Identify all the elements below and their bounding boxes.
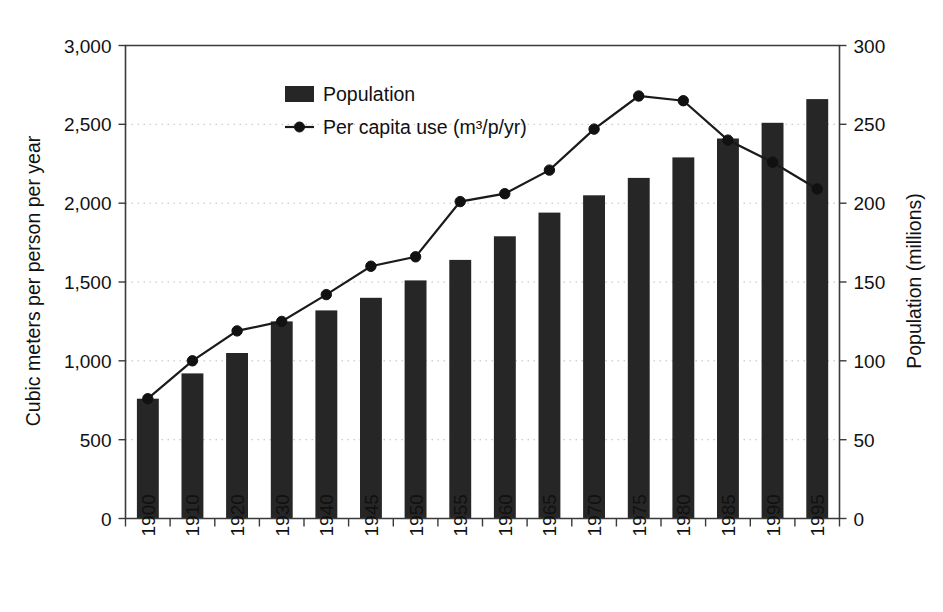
x-tick-label-1990: 1990 bbox=[763, 494, 784, 536]
legend-swatch-population bbox=[285, 86, 314, 102]
x-tick-label-1920: 1920 bbox=[227, 494, 248, 536]
bar-1990 bbox=[762, 123, 784, 519]
bar-1985 bbox=[717, 139, 739, 519]
x-tick-label-1910: 1910 bbox=[182, 494, 203, 536]
x-tick-label-1955: 1955 bbox=[450, 494, 471, 536]
y-tick-label-right: 250 bbox=[854, 114, 886, 135]
bar-1995 bbox=[806, 99, 828, 518]
y-tick-label-left: 0 bbox=[101, 509, 112, 530]
data-point-1980 bbox=[678, 96, 688, 106]
bar-1920 bbox=[226, 353, 248, 519]
bar-1955 bbox=[449, 260, 471, 519]
data-point-1900 bbox=[143, 394, 153, 404]
legend-marker-per-capita-use bbox=[295, 122, 305, 132]
data-point-1940 bbox=[321, 289, 331, 299]
y-tick-label-left: 2,500 bbox=[64, 114, 112, 135]
data-point-1970 bbox=[589, 124, 599, 134]
data-point-1950 bbox=[410, 252, 420, 262]
bar-1960 bbox=[494, 236, 516, 518]
x-tick-label-1970: 1970 bbox=[584, 494, 605, 536]
y-tick-label-left: 1,000 bbox=[64, 351, 112, 372]
y-tick-label-left: 2,000 bbox=[64, 193, 112, 214]
bar-1965 bbox=[539, 213, 561, 519]
bar-1950 bbox=[405, 280, 427, 518]
x-tick-label-1940: 1940 bbox=[316, 494, 337, 536]
y-tick-label-right: 100 bbox=[854, 351, 886, 372]
data-point-1965 bbox=[544, 165, 554, 175]
water-use-population-chart: 05001,0001,5002,0002,5003,000 0501001502… bbox=[0, 0, 943, 612]
y-tick-label-left: 1,500 bbox=[64, 272, 112, 293]
x-tick-label-1980: 1980 bbox=[673, 494, 694, 536]
data-point-1995 bbox=[812, 184, 822, 194]
y-tick-label-right: 150 bbox=[854, 272, 886, 293]
data-point-1955 bbox=[455, 196, 465, 206]
x-tick-label-1930: 1930 bbox=[272, 494, 293, 536]
bar-1975 bbox=[628, 178, 650, 519]
data-point-1910 bbox=[187, 356, 197, 366]
y-tick-label-right: 50 bbox=[854, 430, 875, 451]
data-point-1960 bbox=[500, 189, 510, 199]
bar-1980 bbox=[672, 157, 694, 518]
x-tick-label-1975: 1975 bbox=[629, 494, 650, 536]
x-tick-label-1985: 1985 bbox=[718, 494, 739, 536]
y-tick-label-left: 3,000 bbox=[64, 36, 112, 57]
legend-label-per-capita-use: Per capita use (m³/p/yr) bbox=[323, 116, 527, 138]
data-point-1975 bbox=[634, 91, 644, 101]
data-point-1920 bbox=[232, 326, 242, 336]
data-point-1945 bbox=[366, 261, 376, 271]
bar-1930 bbox=[271, 321, 293, 518]
y-tick-label-left: 500 bbox=[80, 430, 112, 451]
x-tick-label-1960: 1960 bbox=[495, 494, 516, 536]
bar-1945 bbox=[360, 298, 382, 519]
legend-label-population: Population bbox=[323, 83, 415, 105]
chart-figure: 05001,0001,5002,0002,5003,000 0501001502… bbox=[0, 0, 943, 612]
x-tick-label-1950: 1950 bbox=[406, 494, 427, 536]
x-tick-label-1900: 1900 bbox=[138, 494, 159, 536]
x-tick-label-1995: 1995 bbox=[807, 494, 828, 536]
y-tick-label-right: 0 bbox=[854, 509, 865, 530]
bar-1940 bbox=[315, 310, 337, 518]
data-point-1930 bbox=[277, 316, 287, 326]
data-point-1990 bbox=[767, 157, 777, 167]
y-tick-label-right: 300 bbox=[854, 36, 886, 57]
y-axis-left-title: Cubic meters per person per year bbox=[22, 135, 44, 426]
data-point-1985 bbox=[723, 135, 733, 145]
y-axis-right-title: Population (millions) bbox=[903, 193, 925, 369]
x-tick-label-1945: 1945 bbox=[361, 494, 382, 536]
x-tick-label-1965: 1965 bbox=[539, 494, 560, 536]
bar-1970 bbox=[583, 195, 605, 518]
y-tick-label-right: 200 bbox=[854, 193, 886, 214]
